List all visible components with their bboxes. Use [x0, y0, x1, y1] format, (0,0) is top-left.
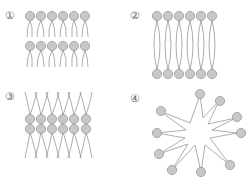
diagram-4: [157, 95, 237, 172]
diagram-1: [27, 20, 88, 67]
diagram-canvas: [0, 0, 247, 178]
diagram-1-heads: [25, 11, 89, 50]
diagram-2-heads: [152, 11, 216, 78]
diagram-3: [25, 92, 92, 158]
diagram-2: [154, 20, 215, 70]
diagram-3-heads: [25, 114, 90, 133]
